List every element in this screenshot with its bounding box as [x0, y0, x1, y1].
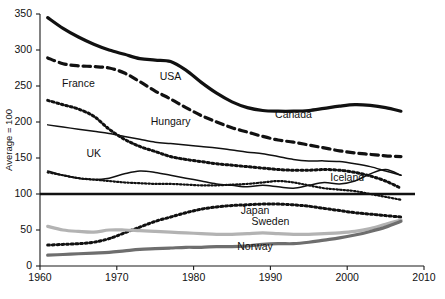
series-label-sweden: Sweden	[251, 215, 289, 227]
series-label-hungary: Hungary	[151, 115, 191, 127]
y-axis-title: Average = 100	[3, 109, 14, 171]
y-tick-label-200: 200	[14, 115, 32, 127]
series-label-canada: Canada	[275, 108, 312, 120]
x-tick-label-1960: 1960	[28, 271, 52, 283]
y-tick-label-150: 150	[14, 151, 32, 163]
x-tick-label-2000: 2000	[336, 271, 360, 283]
x-tick-label-1970: 1970	[105, 271, 129, 283]
x-tick-label-1980: 1980	[182, 271, 206, 283]
series-label-france: France	[62, 77, 95, 89]
series-label-uk: UK	[86, 147, 101, 159]
y-tick-label-100: 100	[14, 187, 32, 199]
series-label-iceland: Iceland	[330, 171, 364, 183]
series-label-norway: Norway	[237, 240, 273, 252]
chart-canvas: 050100150200250300350 196019701980199020…	[0, 0, 445, 299]
y-tick-label-350: 350	[14, 7, 32, 19]
line-chart: 050100150200250300350 196019701980199020…	[0, 0, 445, 299]
x-tick-label-1990: 1990	[259, 271, 283, 283]
series-label-usa: USA	[160, 70, 182, 82]
y-tick-label-0: 0	[26, 259, 32, 271]
y-tick-label-300: 300	[14, 43, 32, 55]
y-tick-label-50: 50	[20, 223, 32, 235]
y-tick-label-250: 250	[14, 79, 32, 91]
x-tick-label-2010: 2010	[412, 271, 436, 283]
